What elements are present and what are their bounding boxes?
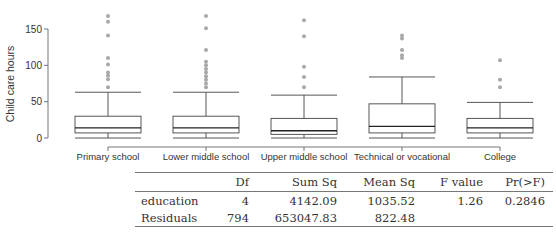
outlier-point: [204, 60, 208, 64]
outlier-point: [106, 20, 110, 24]
table-row: education 4 4142.09 1035.52 1.26 0.2846: [135, 192, 553, 210]
outlier-point: [302, 85, 306, 89]
box-upper-middle-school: [271, 18, 337, 138]
outlier-point: [302, 34, 306, 38]
y-tick-label: 100: [25, 60, 42, 71]
outlier-point: [204, 78, 208, 82]
header-sum-sq: Sum Sq: [257, 173, 345, 192]
y-tick-label: 0: [36, 133, 42, 144]
outlier-point: [204, 82, 208, 86]
x-tick-label: Lower middle school: [163, 151, 250, 162]
outlier-point: [204, 26, 208, 30]
boxes: [75, 14, 533, 138]
iqr-box: [75, 116, 141, 133]
anova-table: Df Sum Sq Mean Sq F value Pr(>F) educati…: [135, 172, 553, 227]
y-axis: 050100150: [25, 24, 48, 144]
outlier-point: [498, 58, 502, 62]
outlier-point: [106, 56, 110, 60]
box-primary-school: [75, 14, 141, 138]
cell-mean-sq: 822.48: [345, 209, 423, 227]
cell-df: 794: [211, 209, 257, 227]
box-college: [467, 58, 533, 138]
header-mean-sq: Mean Sq: [345, 173, 423, 192]
outlier-point: [204, 74, 208, 78]
box-lower-middle-school: [173, 14, 239, 138]
cell-p-value: [491, 209, 553, 227]
outlier-point: [204, 48, 208, 52]
outlier-point: [498, 85, 502, 89]
outlier-point: [400, 53, 404, 57]
outlier-point: [204, 85, 208, 89]
y-tick-label: 50: [31, 96, 43, 107]
outlier-point: [106, 71, 110, 75]
outlier-point: [204, 71, 208, 75]
cell-f-value: 1.26: [423, 192, 491, 210]
cell-sum-sq: 653047.83: [257, 209, 345, 227]
outlier-point: [302, 18, 306, 22]
header-blank: [135, 173, 211, 192]
header-df: Df: [211, 173, 257, 192]
outlier-point: [204, 14, 208, 18]
table-row: Residuals 794 653047.83 822.48: [135, 209, 553, 227]
box-technical-or-vocational: [369, 34, 435, 138]
iqr-box: [271, 118, 337, 134]
outlier-point: [204, 67, 208, 71]
iqr-box: [369, 104, 435, 133]
outlier-point: [106, 77, 110, 81]
outlier-point: [400, 48, 404, 52]
cell-df: 4: [211, 192, 257, 210]
row-label: Residuals: [135, 209, 211, 227]
header-p-value: Pr(>F): [491, 173, 553, 192]
outlier-point: [302, 75, 306, 79]
y-axis-label: Child care hours: [4, 46, 16, 122]
header-f-value: F value: [423, 173, 491, 192]
outlier-point: [498, 78, 502, 82]
outlier-point: [106, 34, 110, 38]
outlier-point: [302, 65, 306, 69]
iqr-box: [467, 118, 533, 133]
cell-sum-sq: 4142.09: [257, 192, 345, 210]
boxplot-chart: 050100150 Child care hours Primary schoo…: [0, 0, 556, 165]
cell-mean-sq: 1035.52: [345, 192, 423, 210]
outlier-point: [106, 14, 110, 18]
x-tick-label: Technical or vocational: [354, 151, 450, 162]
anova-header-row: Df Sum Sq Mean Sq F value Pr(>F): [135, 173, 553, 192]
x-tick-label: Upper middle school: [261, 151, 348, 162]
x-tick-label: College: [484, 151, 516, 162]
x-tick-label: Primary school: [77, 151, 140, 162]
row-label: education: [135, 192, 211, 210]
outlier-point: [106, 85, 110, 89]
iqr-box: [173, 116, 239, 133]
outlier-point: [204, 63, 208, 67]
cell-f-value: [423, 209, 491, 227]
cell-p-value: 0.2846: [491, 192, 553, 210]
x-axis: Primary schoolLower middle schoolUpper m…: [77, 147, 517, 162]
outlier-point: [400, 34, 404, 38]
y-tick-label: 150: [25, 24, 42, 35]
outlier-point: [106, 63, 110, 67]
